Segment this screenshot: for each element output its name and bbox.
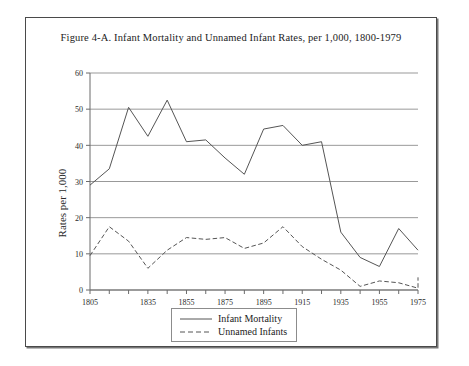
legend-item-unnamed-infants: Unnamed Infants [179, 325, 287, 338]
y-tick-label: 30 [75, 178, 83, 187]
x-tick-label: 1835 [140, 298, 156, 307]
legend-label-infant-mortality: Infant Mortality [218, 313, 282, 324]
x-tick-label: 1955 [371, 298, 387, 307]
series-line-unnamed-infants [90, 227, 418, 288]
y-tick-label: 40 [75, 142, 83, 151]
figure-frame: Figure 4-A. Infant Mortality and Unnamed… [25, 17, 437, 347]
x-tick-label: 1805 [82, 298, 98, 307]
legend-swatch-dashed [179, 327, 213, 337]
data-series [90, 100, 418, 288]
x-tick-label: 1975 [410, 298, 426, 307]
y-tick-label: 10 [75, 250, 83, 259]
y-tick-label: 50 [75, 105, 83, 114]
series-line-infant-mortality [90, 100, 418, 266]
x-tick-label: 1935 [333, 298, 349, 307]
x-tick-label: 1875 [217, 298, 233, 307]
y-tick-label: 20 [75, 214, 83, 223]
gridlines [90, 73, 418, 290]
legend-item-infant-mortality: Infant Mortality [179, 312, 287, 325]
x-tick-label: 1855 [178, 298, 194, 307]
y-axis-title-text: Rates per 1,000 [56, 168, 68, 237]
legend-label-unnamed-infants: Unnamed Infants [218, 326, 287, 337]
x-axis-ticks: 180518351855187518951915193519551975 [82, 290, 426, 307]
legend-swatch-solid [179, 314, 213, 324]
y-tick-label: 0 [79, 286, 83, 295]
chart-legend: Infant Mortality Unnamed Infants [171, 308, 297, 342]
y-tick-label: 60 [75, 69, 83, 78]
y-axis-ticks: 0102030405060 [75, 69, 90, 295]
x-tick-label: 1895 [256, 298, 272, 307]
line-chart: Rates per 1,000 0102030405060 1805183518… [26, 18, 438, 348]
y-axis-title: Rates per 1,000 [56, 168, 68, 237]
chart-canvas: Rates per 1,000 0102030405060 1805183518… [26, 18, 438, 348]
x-tick-label: 1915 [294, 298, 310, 307]
